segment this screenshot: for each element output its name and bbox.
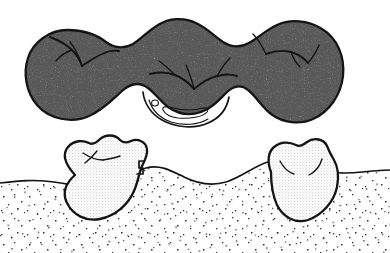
bridge-prosthesis xyxy=(20,14,352,130)
bridge-stipple-fill xyxy=(20,14,352,130)
illustration-canvas xyxy=(0,0,390,253)
dental-bridge-figure xyxy=(0,0,390,253)
